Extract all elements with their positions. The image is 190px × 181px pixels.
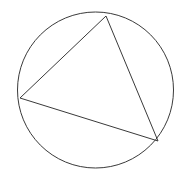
figure-container (0, 0, 190, 181)
geometry-canvas (0, 0, 190, 181)
